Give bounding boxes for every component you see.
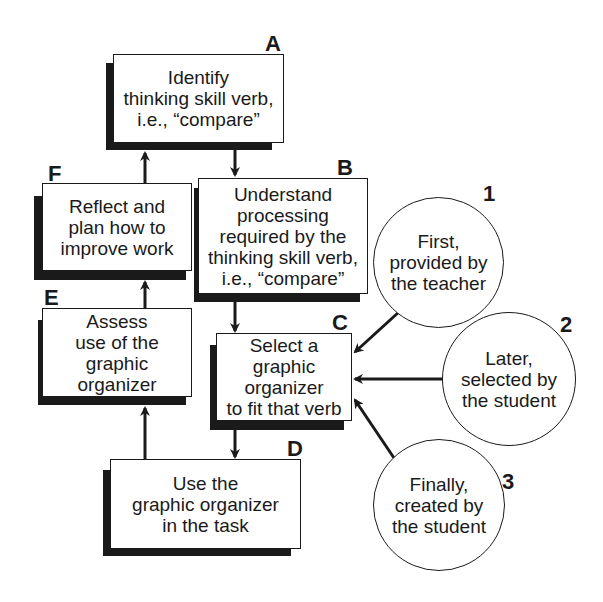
source-3-circle: Finally, created by the student [373, 439, 505, 571]
step-b-label: B [337, 157, 353, 179]
step-e-label: E [44, 287, 59, 309]
source-3-label: 3 [502, 471, 514, 493]
step-f-box: Reflect and plan how to improve work [42, 183, 192, 271]
step-d-box: Use the graphic organizer in the task [110, 459, 301, 549]
step-a-text: Identify thinking skill verb, i.e., “com… [124, 67, 274, 130]
step-e-box: Assess use of the graphic organizer [42, 308, 192, 397]
step-b-text: Understand processing required by the th… [208, 184, 358, 289]
source-1-text: First, provided by the teacher [389, 231, 487, 294]
source-2-circle: Later, selected by the student [442, 312, 576, 446]
source-2-label: 2 [560, 314, 572, 336]
source-1-label: 1 [483, 183, 495, 205]
step-b-box: Understand processing required by the th… [198, 178, 368, 294]
step-c-text: Select a graphic organizer to fit that v… [226, 335, 341, 419]
step-a-label: A [265, 33, 281, 55]
step-d-label: D [287, 438, 303, 460]
arrow-1-to-c [355, 311, 400, 352]
arrow-3-to-c [355, 400, 394, 458]
step-c-box: Select a graphic organizer to fit that v… [216, 333, 352, 421]
step-e-text: Assess use of the graphic organizer [75, 311, 158, 395]
source-1-circle: First, provided by the teacher [373, 197, 504, 328]
source-3-text: Finally, created by the student [392, 474, 486, 537]
step-a-box: Identify thinking skill verb, i.e., “com… [113, 54, 284, 143]
step-f-text: Reflect and plan how to improve work [61, 196, 174, 259]
step-c-label: C [332, 312, 348, 334]
step-f-label: F [48, 163, 61, 185]
source-2-text: Later, selected by the student [461, 348, 557, 411]
step-d-text: Use the graphic organizer in the task [132, 473, 279, 536]
